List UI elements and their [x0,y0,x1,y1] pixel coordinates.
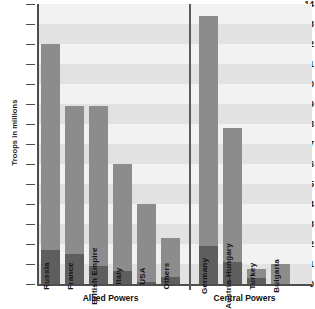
y-tick [26,4,35,5]
bar: Austria-Hungary [223,128,242,284]
bar-label: Italy [114,267,123,284]
y-tick [26,184,35,185]
bar: Others [161,238,180,284]
y-tick [26,144,35,145]
y-tick [26,44,35,45]
grid-band [39,44,312,64]
bar: Bulgaria [271,264,290,284]
bar: Turkey [247,269,266,284]
y-tick [26,204,35,205]
bar: Germany [199,16,218,284]
bar: USA [137,204,156,284]
bar-label: Germany [200,258,209,294]
bar-label: Russia [42,262,51,289]
group-label: Central Powers [199,293,290,303]
group-label: Allied Powers [41,293,180,303]
grid-band [39,84,312,104]
x-axis-line [37,284,312,286]
bar-label: USA [138,267,147,285]
grid-band [39,4,312,24]
y-tick [26,84,35,85]
bar: France [65,106,84,284]
grid-band [39,24,312,44]
bar-label: France [66,262,75,289]
y-tick [26,124,35,125]
y-tick [26,104,35,105]
grid-band [39,64,312,84]
y-tick [26,164,35,165]
y-tick [26,64,35,65]
y-tick [26,244,35,245]
bar: British Empire [89,106,108,284]
y-axis-title: Troops in millions [10,83,19,183]
y-tick [26,224,35,225]
y-tick [26,284,35,285]
bar-label: Bulgaria [272,259,281,293]
y-tick [26,264,35,265]
y-tick [26,24,35,25]
bar-label: Turkey [248,263,257,290]
bar: Italy [113,164,132,284]
bar-label: Others [162,263,171,290]
group-separator [189,4,191,290]
bar: Russia [41,44,60,284]
